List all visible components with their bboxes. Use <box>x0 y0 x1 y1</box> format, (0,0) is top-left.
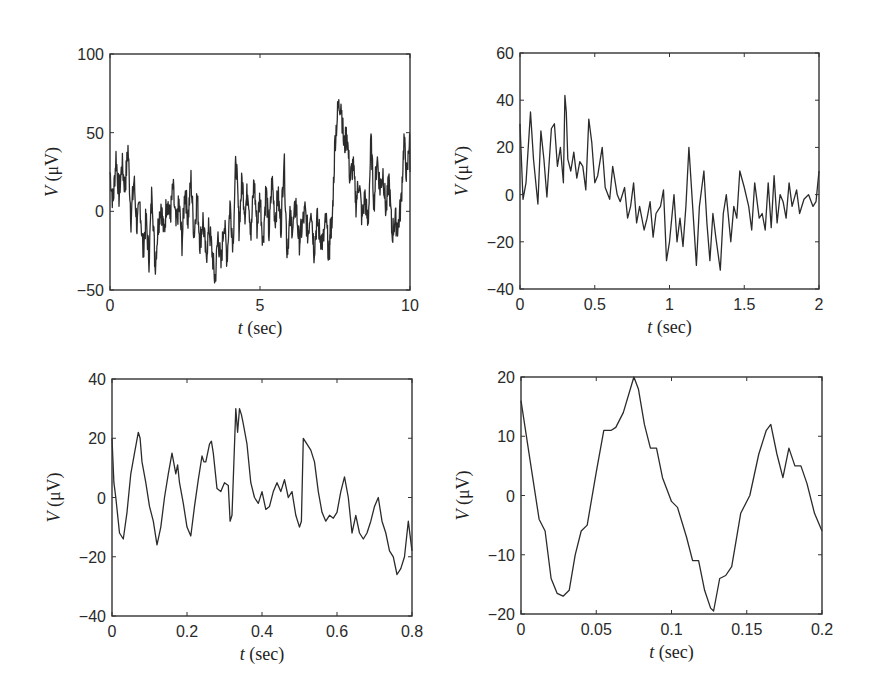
axes-frame <box>521 377 822 614</box>
x-tick-label: 0.15 <box>731 621 762 638</box>
y-tick-label: −20 <box>487 234 514 251</box>
axes-frame <box>520 53 819 289</box>
y-tick-label: 20 <box>496 139 514 156</box>
x-axis-label: t (sec) <box>647 317 692 338</box>
x-tick-label: 0 <box>106 297 115 314</box>
x-axis-label: t (sec) <box>240 644 285 665</box>
x-axis-label: t (sec) <box>238 318 283 339</box>
y-tick-label: −20 <box>488 606 515 623</box>
y-axis-label: V (μV) <box>44 472 65 522</box>
y-tick-label: 0 <box>95 203 104 220</box>
signal-trace <box>521 377 822 611</box>
x-tick-label: 0.1 <box>660 621 682 638</box>
y-tick-label: 40 <box>496 92 514 109</box>
y-tick-label: 0 <box>505 187 514 204</box>
x-tick-label: 0.6 <box>326 623 348 640</box>
figure-canvas: 0510−50050100t (sec)V (μV) 00.511.52−40−… <box>0 0 873 699</box>
x-tick-label: 0 <box>516 296 525 313</box>
y-tick-label: 10 <box>497 428 515 445</box>
x-axis-label: t (sec) <box>649 642 694 663</box>
y-tick-label: −50 <box>77 282 104 299</box>
signal-trace <box>520 96 819 271</box>
y-tick-label: 0 <box>97 490 106 507</box>
y-tick-label: 20 <box>497 369 515 386</box>
x-tick-label: 0.4 <box>251 623 273 640</box>
x-tick-label: 0.5 <box>584 296 606 313</box>
x-tick-label: 10 <box>401 297 419 314</box>
panel-top-right: 00.511.52−40−200204060t (sec)V (μV) <box>452 45 824 338</box>
y-axis-label: V (μV) <box>453 470 474 520</box>
y-tick-label: 100 <box>77 46 104 63</box>
y-tick-label: 60 <box>496 45 514 62</box>
x-tick-label: 0.05 <box>581 621 612 638</box>
y-tick-label: −20 <box>79 549 106 566</box>
y-tick-label: 0 <box>506 488 515 505</box>
panel-bottom-left: 00.20.40.60.8−40−2002040t (sec)V (μV) <box>44 371 423 665</box>
x-tick-label: 0.2 <box>811 621 833 638</box>
y-tick-label: 50 <box>86 125 104 142</box>
x-tick-label: 1 <box>665 296 674 313</box>
x-tick-label: 1.5 <box>733 296 755 313</box>
x-tick-label: 0 <box>517 621 526 638</box>
y-tick-label: 40 <box>88 371 106 388</box>
x-tick-label: 0.2 <box>176 623 198 640</box>
panel-bottom-right: 00.050.10.150.2−20−1001020t (sec)V (μV) <box>453 369 833 663</box>
axes-frame <box>112 379 412 616</box>
y-tick-label: −10 <box>488 547 515 564</box>
y-tick-label: −40 <box>487 281 514 298</box>
y-axis-label: V (μV) <box>42 147 63 197</box>
y-tick-label: −40 <box>79 608 106 625</box>
x-tick-label: 5 <box>256 297 265 314</box>
x-tick-label: 2 <box>815 296 824 313</box>
signal-trace <box>112 409 412 575</box>
x-tick-label: 0.8 <box>401 623 423 640</box>
y-tick-label: 20 <box>88 430 106 447</box>
x-tick-label: 0 <box>108 623 117 640</box>
panel-top-left: 0510−50050100t (sec)V (μV) <box>42 46 419 339</box>
y-axis-label: V (μV) <box>452 146 473 196</box>
signal-trace <box>110 100 410 283</box>
